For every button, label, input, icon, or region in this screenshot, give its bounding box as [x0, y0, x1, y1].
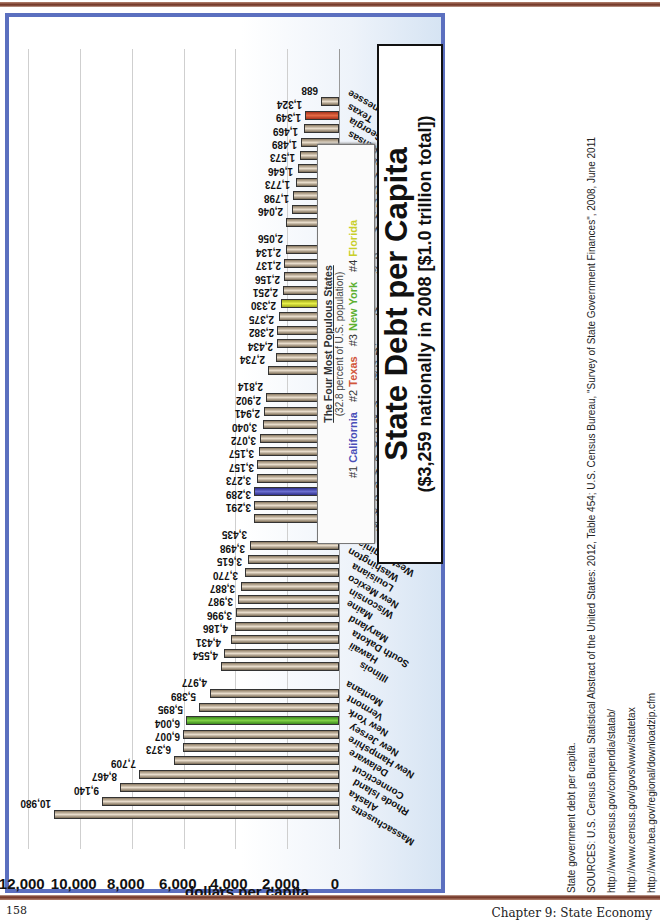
bar-virginia: 2,734Virginia	[29, 363, 359, 375]
bar-maine: 3,987Maine	[29, 605, 359, 617]
bar-hawaii: 4,431Hawaii	[29, 646, 359, 658]
bar-new-york: 5,895New York	[29, 713, 359, 725]
bar-missouri: 3,291Missouri	[29, 511, 359, 523]
chart-panel: 02,0004,0006,0008,00010,00012,00010,980M…	[5, 13, 445, 893]
chapter-title: Chapter 9: State Economy	[492, 906, 652, 920]
legend-item: #4 Florida	[347, 220, 359, 272]
bar	[248, 555, 339, 564]
bar	[305, 111, 339, 120]
axis-tick-label: 10,000	[51, 875, 97, 892]
bar	[221, 662, 339, 671]
bar-illinois: 4,554Illinois	[29, 659, 359, 671]
bar-rhode-island: 8,467Rhode Island	[29, 780, 359, 792]
bar	[238, 595, 339, 604]
bar-washington: 3,498Washington	[29, 552, 359, 564]
bar	[224, 649, 339, 658]
bar-vermont: 5,389Vermont	[29, 700, 359, 712]
legend: The Four Most Populous States (32.8 perc…	[317, 144, 375, 544]
plot-area: 02,0004,0006,0008,00010,00012,00010,980M…	[29, 49, 359, 849]
source-link-2[interactable]: http://www.census.gov/govs/www/statetax	[626, 707, 637, 893]
bar-connecticut: 7,709Connecticut	[29, 767, 359, 779]
bar	[235, 622, 339, 631]
axis-tick-label: 12,000	[0, 875, 45, 892]
bar-alaska: 9,140Alaska	[29, 794, 359, 806]
bar-texas: 1,324Texas	[29, 108, 359, 120]
bar-alabama: 1,773Alabama	[29, 188, 359, 200]
legend-item: #1 California	[347, 412, 359, 478]
bar-louisiana: 3,615Louisiana	[29, 565, 359, 577]
footer-rule	[0, 895, 660, 900]
bar-mississippi: 2,134Mississippi	[29, 256, 359, 268]
bar-iowa: 2,375Iowa	[29, 323, 359, 335]
bar-delaware: 6,373Delaware	[29, 753, 359, 765]
bar-colorado: 3,157Colorado	[29, 471, 359, 483]
bar-arizona: 1,646Arizona	[29, 175, 359, 187]
bar	[236, 608, 339, 617]
legend-note: (32.8 percent of U.S. population)	[334, 145, 345, 543]
bar	[183, 743, 339, 752]
bar-south-carolina: 3,289South Carolina	[29, 498, 359, 510]
bar-utah: 2,137Utah	[29, 269, 359, 281]
bar-georgia: 1,349Georgia	[29, 121, 359, 133]
value-label: 688	[301, 85, 318, 96]
chart-subtitle: ($3,259 nationally in 2008 [$1.0 trillio…	[414, 46, 436, 562]
value-label: 2,814	[238, 381, 263, 392]
legend-item: #2 Texas	[347, 356, 359, 402]
source-link-1[interactable]: http://www.census.gov/compendia/statab/	[606, 709, 617, 893]
bar	[199, 703, 339, 712]
bar	[120, 783, 339, 792]
bar-north-carolina: 2,056North Carolina	[29, 242, 359, 254]
title-box: State Debt per Capita ($3,259 nationally…	[377, 44, 443, 564]
bar-north-dakota: 2,902North Dakota	[29, 404, 359, 416]
bar	[54, 810, 339, 819]
bar-florida: 2,251Florida	[29, 296, 359, 308]
header-rule	[0, 2, 660, 7]
bar	[139, 770, 339, 779]
bar-arkansas: 1,469Arkansas	[29, 135, 359, 147]
bar-west-virginia: 3,435West Virginia	[29, 538, 359, 550]
bar	[174, 756, 339, 765]
bar-tennessee: 688Tennessee	[29, 94, 359, 106]
bar-nebraska: 1,489Nebraska	[29, 148, 359, 160]
bar-south-dakota: 4,186South Dakota	[29, 632, 359, 644]
bar-pennsylvania: 3,157Pennsylvania	[29, 457, 359, 469]
axis-tick-label: 0	[331, 875, 339, 892]
value-label: 3,435	[222, 529, 247, 540]
caption: State government debt per capita.	[566, 742, 577, 893]
bar-indiana: 3,072Indiana	[29, 444, 359, 456]
bar-new-mexico: 3,770New Mexico	[29, 579, 359, 591]
value-label: 4,977	[182, 677, 207, 688]
axis-tick-label: 8,000	[107, 875, 145, 892]
bar-michigan: 2,941Michigan	[29, 417, 359, 429]
citation: SOURCES: U.S. Census Bureau Statistical …	[586, 137, 597, 893]
bar	[183, 730, 339, 739]
bar	[241, 582, 339, 591]
bar-kentucky: 2,814Kentucky	[29, 390, 359, 402]
bar-oklahoma: 2,434Oklahoma	[29, 350, 359, 362]
value-label: 2,056	[258, 233, 283, 244]
bar-wisconsin: 3,887Wisconsin	[29, 592, 359, 604]
bar	[210, 689, 339, 698]
bar-minnesota: 1,798Minnesota	[29, 202, 359, 214]
legend-item: #3 New York	[347, 282, 359, 346]
bar-montana: 4,977Montana	[29, 686, 359, 698]
bar-massachusetts: 10,980Massachusetts	[29, 807, 359, 819]
bar	[186, 716, 339, 725]
bar-ohio: 2,330Ohio	[29, 309, 359, 321]
bar-maryland: 3,996Maryland	[29, 619, 359, 631]
sources-block: State government debt per capita. SOURCE…	[566, 13, 660, 893]
source-link-3[interactable]: http://www.bea.gov/regional/downloadzip.…	[646, 693, 657, 893]
bar-new-hampshire: 6,007New Hampshire	[29, 740, 359, 752]
bar-oregon: 3,040Oregon	[29, 431, 359, 443]
bar-nevada: 1,573Nevada	[29, 161, 359, 173]
bar-new-jersey: 6,004New Jersey	[29, 727, 359, 739]
legend-items: #1 California#2 Texas#3 New York#4 Flori…	[347, 145, 359, 543]
bar	[321, 97, 339, 106]
bar-idaho: 2,156Idaho	[29, 283, 359, 295]
bar	[231, 635, 339, 644]
bar-wyoming: 2,382Wyoming	[29, 336, 359, 348]
chart-title: State Debt per Capita	[380, 46, 414, 562]
legend-title: The Four Most Populous States	[322, 145, 334, 543]
bar	[245, 568, 339, 577]
bar-kansas: 2,046Kansas	[29, 215, 359, 227]
